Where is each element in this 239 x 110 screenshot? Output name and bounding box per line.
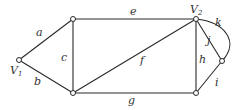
edge-f [73, 19, 196, 93]
label-b: b [34, 75, 41, 88]
vertex-label-v2: V2 [190, 3, 203, 17]
vertex-top-left [71, 17, 76, 22]
label-i: i [215, 76, 219, 89]
label-h: h [199, 53, 206, 66]
label-a: a [36, 26, 43, 39]
label-g: g [128, 94, 135, 107]
graph-diagram: a b c e f g h i j k V1 V2 [0, 0, 239, 110]
edge-b [19, 60, 73, 93]
label-f: f [139, 54, 146, 67]
label-e: e [130, 5, 137, 18]
label-j: j [204, 34, 211, 47]
vertex-v1 [17, 58, 22, 63]
vertex-bottom-right [194, 91, 199, 96]
vertex-right [220, 59, 225, 64]
vertex-label-v1: V1 [10, 64, 22, 78]
label-c: c [61, 51, 67, 64]
label-k: k [215, 16, 222, 29]
vertex-v2 [194, 17, 199, 22]
vertex-bottom-left [71, 91, 76, 96]
